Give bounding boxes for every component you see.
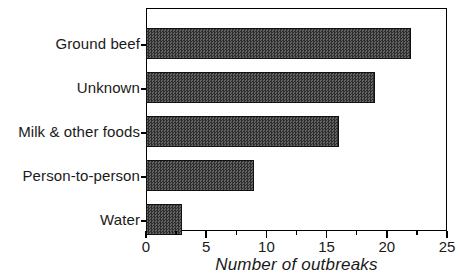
x-axis-tick-label: 25 <box>427 238 460 255</box>
bar-person-to-person <box>146 160 254 191</box>
bars-layer <box>146 8 447 231</box>
y-axis-label-unknown: Unknown <box>0 80 140 96</box>
x-axis-tick-label: 5 <box>186 238 226 255</box>
x-axis-tick-major <box>446 231 448 238</box>
x-axis-title: Number of outbreaks <box>146 255 447 275</box>
y-axis-label-ground-beef: Ground beef <box>0 36 140 52</box>
bar-unknown <box>146 72 375 103</box>
bar-chart: Ground beef Unknown Milk & other foods P… <box>0 0 460 277</box>
bar-milk-other-foods <box>146 116 339 147</box>
y-axis-label-water: Water <box>0 212 140 228</box>
x-axis-tick-label: 10 <box>246 238 286 255</box>
x-axis-tick-major <box>205 231 207 238</box>
x-axis-tick-minor <box>356 231 358 235</box>
x-axis-tick-major <box>326 231 328 238</box>
x-axis-tick-minor <box>416 231 418 235</box>
x-axis-tick-minor <box>175 231 177 235</box>
x-axis-tick-major <box>386 231 388 238</box>
y-axis-label-milk-other-foods: Milk & other foods <box>0 124 140 140</box>
bar-ground-beef <box>146 28 411 59</box>
x-axis-tick-minor <box>296 231 298 235</box>
x-axis-tick-label: 20 <box>367 238 407 255</box>
y-axis-labels: Ground beef Unknown Milk & other foods P… <box>0 8 140 231</box>
x-axis-tick-label: 0 <box>126 238 166 255</box>
x-axis-tick-minor <box>236 231 238 235</box>
x-axis-tick-major <box>266 231 268 238</box>
y-axis-label-person-to-person: Person-to-person <box>0 168 140 184</box>
x-axis-tick-label: 15 <box>307 238 347 255</box>
x-axis-tick-major <box>145 231 147 238</box>
